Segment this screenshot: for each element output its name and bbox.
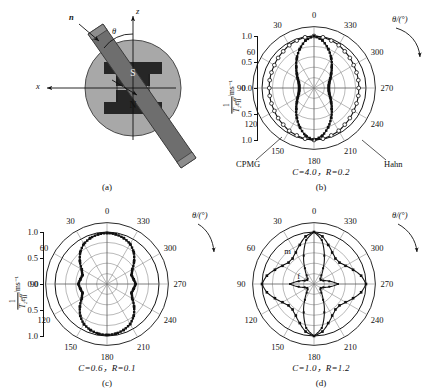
polar-data-marker (289, 283, 291, 285)
polar-data-marker (304, 286, 306, 288)
polar-data-marker (274, 268, 277, 271)
polar-data-marker (122, 329, 124, 331)
polar-data-marker (131, 270, 133, 272)
normal-vector-label: n (69, 12, 74, 22)
polar-data-marker (91, 236, 93, 238)
polar-data-marker (84, 241, 86, 243)
polar-data-marker (322, 299, 324, 301)
polar-data-marker (320, 274, 322, 276)
polar-data-marker (281, 265, 284, 268)
polar-data-marker (338, 261, 341, 264)
polar-data-marker (103, 232, 105, 234)
polar-data-marker (322, 286, 324, 288)
figure-panel-grid: S N n θ z x (a) 1.00.50.00.51.0 03060901… (0, 0, 428, 392)
polar-data-marker (79, 308, 81, 310)
radial-tick-label: 1.0 (18, 331, 38, 341)
curve-annotation: m (284, 246, 291, 256)
polar-data-marker (304, 267, 306, 269)
theta-axis-title-c: θ/(°) (192, 210, 208, 220)
polar-data-marker (88, 237, 90, 239)
polar-data-marker (104, 334, 106, 336)
polar-data-marker (79, 311, 81, 313)
polar-data-marker (127, 241, 129, 243)
pole-label-s: S (130, 68, 135, 78)
polar-data-marker (127, 325, 129, 327)
polar-spoke-outer (54, 253, 62, 258)
polar-data-marker (303, 255, 305, 257)
polar-data-marker (132, 317, 134, 319)
polar-data-marker (117, 332, 119, 334)
polar-data-marker (95, 332, 97, 334)
polar-data-marker (305, 239, 307, 241)
polar-data-marker (133, 314, 135, 316)
radial-tick-mark (40, 336, 44, 337)
polar-spoke-outer (283, 329, 288, 337)
polar-data-marker (111, 333, 113, 335)
polar-data-marker (132, 302, 134, 304)
panel-c-polar: 1.00.50.00.51.0 030609012015018021024027… (0, 196, 214, 392)
polar-data-marker (80, 268, 82, 270)
panel-d-params: C=1.0，R=1.2 (214, 361, 428, 374)
polar-spoke (107, 284, 133, 329)
radial-tick-label: 1.0 (18, 227, 38, 237)
polar-spoke-outer (133, 231, 138, 239)
theta-tick-label: 240 (369, 315, 385, 325)
theta-tick-label: 120 (243, 315, 259, 325)
polar-data-marker (133, 308, 135, 310)
polar-data-marker (133, 305, 135, 307)
theta-tick-label: 0 (99, 206, 115, 216)
polar-data-marker (98, 333, 100, 335)
theta-tick-label: 330 (342, 216, 358, 226)
polar-data-marker (322, 280, 324, 282)
polar-data-marker (261, 283, 264, 286)
polar-data-marker (323, 311, 325, 313)
polar-data-marker (79, 253, 81, 255)
panel-b-params: C=4.0，R=0.2 (214, 165, 428, 178)
polar-data-marker (82, 244, 84, 246)
theta-axis-title-d: θ/(°) (392, 210, 408, 220)
polar-data-marker (79, 262, 81, 264)
polar-data-marker (132, 249, 134, 251)
z-axis-label: z (136, 6, 139, 16)
polar-data-marker (321, 330, 324, 333)
polar-data-marker (119, 330, 121, 332)
polar-data-marker (129, 244, 131, 246)
polar-data-marker (100, 233, 102, 235)
theta-tick-label: 150 (63, 342, 79, 352)
theta-tick-label: 300 (369, 243, 385, 253)
polar-data-marker (81, 320, 83, 322)
theta-tick-label: 150 (270, 342, 286, 352)
polar-spoke-outer (54, 310, 62, 315)
polar-data-marker (85, 325, 87, 327)
polar-data-marker (287, 304, 290, 307)
radial-axis-fraction-c: 1 T₂eff (9, 293, 26, 309)
panel-d-polar: 0306090120150180210240270300330 mf θ/(°)… (214, 196, 428, 392)
polar-spoke-outer (76, 231, 81, 239)
polar-data-marker (86, 239, 88, 241)
polar-data-marker (93, 331, 95, 333)
polar-spoke-outer (133, 329, 138, 337)
theta-tick-label: 240 (162, 315, 178, 325)
panel-a-caption: (a) (0, 182, 214, 192)
polar-data-marker (125, 327, 127, 329)
polar-data-marker (80, 265, 82, 267)
polar-data-marker (79, 250, 81, 252)
polar-data-marker (266, 274, 269, 277)
polar-data-marker (101, 333, 103, 335)
polar-data-marker (112, 233, 114, 235)
polar-data-marker (365, 283, 368, 286)
schematic-svg: S N (0, 0, 214, 196)
polar-data-marker (321, 327, 323, 329)
polar-data-marker (125, 239, 127, 241)
polar-data-marker (306, 279, 308, 281)
polar-data-marker (295, 314, 298, 317)
polar-data-marker (298, 244, 301, 247)
polar-data-marker (131, 246, 133, 248)
polar-data-marker (79, 315, 81, 317)
polar-data-marker (79, 302, 81, 304)
polar-data-marker (291, 308, 294, 311)
polar-spoke (62, 284, 107, 310)
theta-tick-label: 210 (342, 342, 358, 352)
polar-data-marker (133, 262, 135, 264)
polar-spoke (107, 239, 133, 284)
